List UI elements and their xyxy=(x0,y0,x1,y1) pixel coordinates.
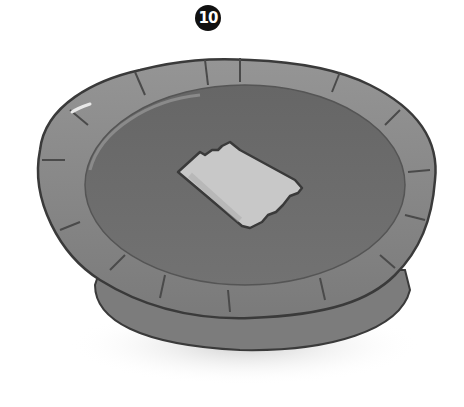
pie-illustration xyxy=(0,0,464,407)
